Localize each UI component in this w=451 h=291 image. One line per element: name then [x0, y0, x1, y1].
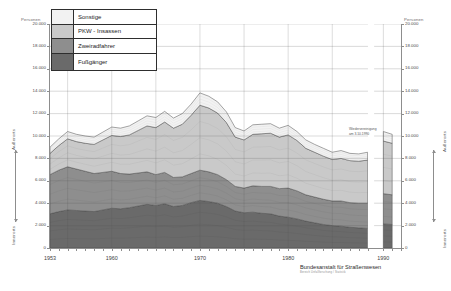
- y-tick-dash: [401, 181, 404, 182]
- x-axis-tick: [368, 248, 369, 251]
- x-axis-tick: [297, 248, 298, 251]
- chart-legend: SonstigePKW - InsassenZweiradfahrerFußgä…: [51, 9, 157, 71]
- legend-label: PKW - Insassen: [74, 25, 156, 39]
- footer-organisation: Bundesanstalt für Straßenwesen: [300, 264, 381, 270]
- y-tick-dash: [401, 136, 404, 137]
- right-range-arrow: [433, 150, 434, 222]
- x-axis-tick: [341, 248, 342, 251]
- y-tick-label: 4.000: [405, 200, 416, 205]
- y-tick-label: 20.000: [405, 21, 418, 26]
- x-axis-tick: [59, 248, 60, 251]
- x-axis-tick: [315, 248, 316, 251]
- left-caption-ausserorts: Außerorts: [11, 129, 16, 150]
- x-axis-label: 1960: [106, 255, 118, 261]
- x-axis-label: 1980: [282, 255, 294, 261]
- legend-row: Sonstige: [52, 10, 156, 25]
- area-band-pkw-insassen: [383, 141, 392, 195]
- x-axis-tick: [271, 248, 272, 251]
- chart-footer: Bundesanstalt für Straßenwesen Bereich U…: [300, 264, 381, 274]
- legend-label: Zweiradfahrer: [74, 39, 156, 53]
- x-axis-tick: [392, 248, 393, 251]
- y-tick-label: 8.000: [405, 155, 416, 160]
- x-axis-tick: [182, 248, 183, 251]
- x-axis-tick: [332, 248, 333, 251]
- y-tick-dash: [401, 69, 404, 70]
- y-tick-label: 4.000: [35, 200, 46, 205]
- footer-subline: Bereich Unfallforschung / Statistik: [300, 271, 381, 274]
- y-axis-left: 20.00018.00016.00014.00012.00010.0008.00…: [20, 24, 50, 248]
- y-tick-dash: [401, 91, 404, 92]
- legend-label: Sonstige: [74, 10, 156, 24]
- x-axis-tick: [383, 248, 384, 251]
- x-axis-tick: [253, 248, 254, 251]
- reunification-annotation: Wiedervereinigung am 3.10.1990: [349, 127, 377, 137]
- x-axis-tick: [129, 248, 130, 251]
- y-axis-right: 20.00018.00016.00014.00012.00010.0008.00…: [401, 24, 431, 248]
- y-tick-label: 18.000: [405, 43, 418, 48]
- y-tick-dash: [401, 158, 404, 159]
- x-axis-tick: [165, 248, 166, 251]
- y-tick-label: 16.000: [405, 65, 418, 70]
- legend-swatch: [52, 54, 74, 70]
- legend-swatch: [52, 25, 74, 39]
- x-axis-tick: [279, 248, 280, 251]
- y-tick-label: 16.000: [33, 65, 46, 70]
- y-tick-label: 12.000: [33, 110, 46, 115]
- x-axis: [50, 248, 401, 249]
- annotation-line-2: am 3.10.1990: [349, 132, 377, 137]
- x-axis-tick: [359, 248, 360, 251]
- legend-row: Zweiradfahrer: [52, 39, 156, 54]
- y-tick-label: 10.000: [33, 133, 46, 138]
- y-tick-dash: [401, 46, 404, 47]
- x-axis-tick: [323, 248, 324, 251]
- x-axis-tick: [156, 248, 157, 251]
- x-axis-tick: [138, 248, 139, 251]
- y-tick-label: 18.000: [33, 43, 46, 48]
- x-axis-tick: [244, 248, 245, 251]
- x-axis-tick: [85, 248, 86, 251]
- chart-root: Personen Personen 20.00018.00016.00014.0…: [0, 0, 451, 291]
- y-tick-label: 2.000: [35, 222, 46, 227]
- x-axis-tick: [306, 248, 307, 251]
- legend-swatch: [52, 10, 74, 24]
- x-axis-tick: [121, 248, 122, 251]
- y-tick-dash: [401, 114, 404, 115]
- y-tick-label: 20.000: [33, 21, 46, 26]
- x-axis-tick: [262, 248, 263, 251]
- x-axis-tick: [200, 248, 201, 251]
- legend-swatch: [52, 39, 74, 53]
- x-axis-tick: [112, 248, 113, 251]
- legend-label: Fußgänger: [74, 54, 156, 70]
- y-tick-label: 14.000: [33, 88, 46, 93]
- legend-row: Fußgänger: [52, 54, 156, 70]
- y-tick-label: 0: [44, 245, 46, 250]
- y-tick-label: 2.000: [405, 222, 416, 227]
- y-tick-label: 6.000: [405, 177, 416, 182]
- x-axis-tick: [191, 248, 192, 251]
- x-axis-tick: [350, 248, 351, 251]
- y-tick-label: 14.000: [405, 88, 418, 93]
- x-axis-tick: [288, 248, 289, 251]
- x-axis-tick: [218, 248, 219, 251]
- x-axis-tick: [94, 248, 95, 251]
- x-axis-tick: [209, 248, 210, 251]
- y-tick-label: 10.000: [405, 133, 418, 138]
- x-axis-tick: [401, 248, 402, 251]
- right-caption-innerorts: Innerorts: [442, 229, 447, 248]
- x-axis-tick: [147, 248, 148, 251]
- x-axis-tick: [68, 248, 69, 251]
- x-axis-tick: [103, 248, 104, 251]
- x-axis-label: 1990: [377, 255, 389, 261]
- y-tick-dash: [401, 24, 404, 25]
- x-axis-tick: [50, 248, 51, 251]
- y-tick-dash: [401, 226, 404, 227]
- y-tick-label: 6.000: [35, 177, 46, 182]
- x-axis-tick: [226, 248, 227, 251]
- y-tick-label: 0: [405, 245, 407, 250]
- x-axis-tick: [235, 248, 236, 251]
- left-caption-innerorts: Innerorts: [11, 226, 16, 245]
- x-axis-label: 1953: [44, 255, 56, 261]
- legend-row: PKW - Insassen: [52, 25, 156, 40]
- y-tick-dash: [401, 203, 404, 204]
- y-tick-label: 8.000: [35, 155, 46, 160]
